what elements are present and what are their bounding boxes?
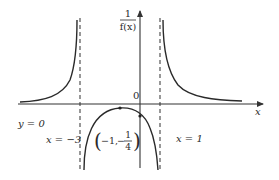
turning-point-denominator: 4 (125, 142, 131, 152)
y-intercept-marker (138, 114, 141, 117)
turning-point-close-paren: ) (133, 129, 141, 153)
y-axis-label-denominator: f(x) (120, 21, 136, 32)
turning-point-x: −1, (101, 135, 118, 146)
turning-point-marker (118, 106, 121, 109)
turning-point-numerator: 1 (125, 130, 131, 140)
horizontal-asymptote-label: y = 0 (17, 118, 45, 129)
x-axis-label: x (255, 106, 261, 117)
turning-point-minus: − (117, 135, 125, 146)
curve-left-branch (20, 20, 77, 102)
turning-point-label: ( −1, − 1 4 ) (94, 129, 141, 153)
y-axis-label-numerator: 1 (125, 8, 131, 19)
function-graph: 1 f(x) 0 x y = 0 x = −3 x = 1 ( −1, − 1 … (0, 0, 279, 180)
curve-right-branch (163, 20, 242, 101)
origin-label: 0 (133, 90, 139, 101)
right-vertical-asymptote-label: x = 1 (176, 133, 203, 144)
left-vertical-asymptote-label: x = −3 (46, 134, 81, 145)
